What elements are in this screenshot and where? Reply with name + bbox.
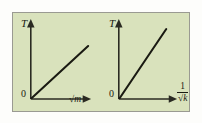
y-axis-label: T [21, 18, 27, 29]
data-line-1 [32, 46, 88, 98]
fraction-numerator: 1 [177, 82, 188, 92]
x-axis-arrow-icon [83, 95, 91, 103]
origin-label: 0 [21, 89, 26, 99]
x-axis-arrow-icon [169, 95, 177, 103]
origin-label: 0 [109, 89, 114, 99]
plot-t-vs-one-over-sqrt-k: T 0 1 √k [101, 13, 189, 111]
x-axis-variable: k [183, 93, 187, 103]
y-axis-arrow-icon [27, 19, 35, 28]
plot-t-vs-sqrt-m: T 0 √m [13, 13, 101, 111]
figure-panel: T 0 √m T 0 1 √k [12, 12, 190, 112]
x-axis-label: √m [69, 95, 81, 105]
fraction-denominator: √k [177, 94, 188, 104]
screenshot-root: T 0 √m T 0 1 √k [0, 0, 202, 123]
x-axis-label: 1 √k [177, 82, 188, 103]
data-line-2 [120, 29, 166, 98]
x-axis-variable: m [74, 94, 81, 104]
y-axis-label: T [109, 18, 115, 29]
y-axis-arrow-icon [115, 19, 123, 28]
